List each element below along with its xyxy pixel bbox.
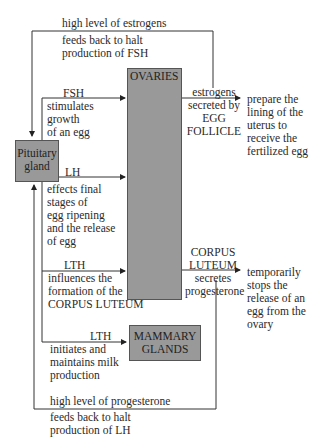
feedback-progesterone-label: high level of progesterone feeds back to… <box>50 395 170 437</box>
corpus-luteum-label: CORPUS LUTEUM secretes progesterone <box>185 246 241 298</box>
lh-label: LH effects final stages of egg ripening … <box>47 166 115 248</box>
lth-milk-label: LTH initiates and maintains milk product… <box>50 330 119 382</box>
uterus-effect-label: prepare the lining of the uterus to rece… <box>247 93 308 158</box>
ovaries-label: OVARIES <box>130 69 181 83</box>
pituitary-label-1: Pituitary <box>16 147 58 160</box>
fsh-label: FSH stimulates growth of an egg <box>47 87 94 139</box>
mammary-glands-node: MAMMARY GLANDS <box>129 325 201 361</box>
mammary-label-2: GLANDS <box>130 343 200 356</box>
mammary-label-1: MAMMARY <box>130 330 200 343</box>
estrogens-label: estrogens secreted by EGG FOLLICLE <box>186 86 242 138</box>
stops-release-label: temporarily stops the release of an egg … <box>247 266 306 331</box>
lth-corpus-label: LTH influences the formation of the CORP… <box>48 259 144 311</box>
feedback-estrogen-label: high level of estrogens feeds back to ha… <box>62 17 166 60</box>
